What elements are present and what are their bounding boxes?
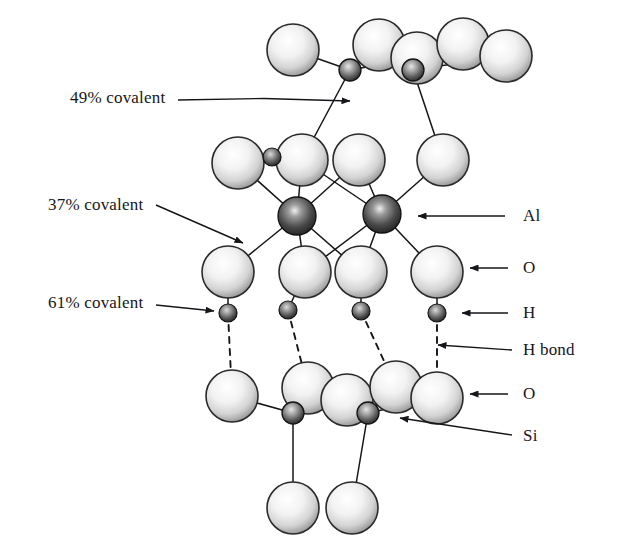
atom-h: [219, 304, 237, 322]
atom-o: [206, 370, 258, 422]
atom-o: [411, 372, 463, 424]
atom-o: [267, 24, 319, 76]
atom-h: [279, 301, 297, 319]
atom-si: [339, 59, 361, 81]
atom-o: [212, 137, 264, 189]
atom-h: [428, 304, 446, 322]
leader-line-covalent-49: [178, 99, 350, 102]
atom-h: [352, 302, 370, 320]
atom-al: [278, 197, 316, 235]
diagram-page: 49% covalent37% covalent61% covalentAlOH…: [0, 0, 622, 549]
label-covalent-49: 49% covalent: [70, 88, 165, 108]
atom-h: [263, 148, 281, 166]
atom-o: [333, 134, 385, 186]
leader-line-covalent-37: [156, 205, 243, 243]
label-atom-o-upper: O: [523, 258, 535, 278]
leader-line-h-bond: [438, 345, 512, 350]
atom-si: [282, 402, 304, 424]
atom-o: [276, 134, 328, 186]
atom-si: [402, 59, 424, 81]
atom-layer: [202, 18, 532, 534]
atom-o: [480, 30, 532, 82]
label-atom-si: Si: [523, 426, 538, 446]
label-atom-o-lower: O: [523, 384, 535, 404]
leader-line-covalent-61: [156, 305, 214, 311]
leader-line-atom-si: [400, 418, 512, 435]
atom-o: [326, 482, 378, 534]
label-covalent-61: 61% covalent: [48, 293, 143, 313]
label-atom-h: H: [523, 303, 535, 323]
atom-al: [363, 195, 401, 233]
atom-o: [202, 246, 254, 298]
atom-o: [279, 246, 331, 298]
atom-o: [417, 134, 469, 186]
atom-si: [357, 402, 379, 424]
atom-o: [335, 246, 387, 298]
label-h-bond: H bond: [523, 340, 575, 360]
atom-o: [411, 246, 463, 298]
label-atom-al: Al: [523, 206, 540, 226]
label-covalent-37: 37% covalent: [48, 195, 143, 215]
atom-o: [267, 482, 319, 534]
